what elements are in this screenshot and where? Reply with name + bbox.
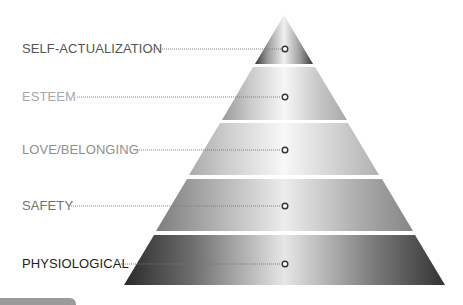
level-label-love-belonging: LOVE/BELONGING — [22, 143, 139, 157]
level-label-esteem: ESTEEM — [22, 90, 76, 104]
level-label-self-actualization: SELF-ACTUALIZATION — [22, 42, 162, 56]
pyramid-tier-esteem — [222, 67, 347, 120]
level-label-physiological: PHYSIOLOGICAL — [22, 257, 129, 271]
bottom-tab — [0, 298, 76, 305]
level-label-safety: SAFETY — [22, 199, 73, 213]
marker-circle-icon — [282, 261, 288, 267]
marker-circle-icon — [282, 203, 288, 209]
marker-circle-icon — [282, 94, 288, 100]
pyramid-tier-physiological — [124, 235, 445, 285]
pyramid-tier-self-actualization — [255, 15, 313, 64]
marker-circle-icon — [282, 46, 288, 52]
marker-circle-icon — [282, 147, 288, 153]
